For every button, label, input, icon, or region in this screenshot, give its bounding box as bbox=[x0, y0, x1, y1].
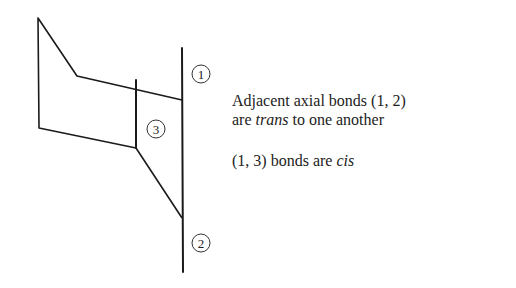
caption-text: are bbox=[232, 111, 256, 128]
label-2: 2 bbox=[192, 234, 210, 252]
label-number: 2 bbox=[198, 236, 205, 251]
caption-text: (1, 3) bonds are bbox=[232, 152, 336, 169]
caption-emphasis: trans bbox=[256, 111, 289, 128]
label-number: 3 bbox=[153, 122, 160, 137]
label-3: 3 bbox=[147, 120, 165, 138]
ring-outline bbox=[38, 18, 182, 218]
caption-line-2: are trans to one another bbox=[232, 110, 384, 129]
caption-line-1: Adjacent axial bonds (1, 2) bbox=[232, 91, 406, 110]
caption-emphasis: cis bbox=[336, 152, 354, 169]
caption-line-3: (1, 3) bonds are cis bbox=[232, 151, 354, 170]
label-number: 1 bbox=[198, 67, 205, 82]
label-1: 1 bbox=[192, 65, 210, 83]
caption-text: Adjacent axial bonds (1, 2) bbox=[232, 92, 406, 109]
axial-bond-1-2 bbox=[182, 48, 183, 272]
figure: 1 3 2 Adjacent axial bonds (1, 2) are tr… bbox=[0, 0, 516, 288]
caption-text: to one another bbox=[288, 111, 384, 128]
cyclohexane-ring-diagram: 1 3 2 bbox=[0, 0, 516, 288]
